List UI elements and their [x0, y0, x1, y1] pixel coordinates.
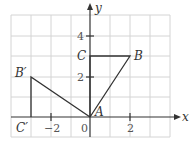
x-axis-arrow-icon [174, 114, 181, 120]
y-tick-label-4: 4 [77, 30, 84, 43]
y-tick-label-2: 2 [77, 71, 84, 84]
point-label-c-prime: C′ [16, 121, 28, 135]
x-tick-label-neg2: −2 [44, 122, 60, 135]
x-axis-label: x [182, 110, 189, 124]
point-label-b: B [133, 49, 143, 63]
coordinate-diagram: x y 4 2 −2 0 2 A B C B′ C′ [0, 0, 190, 143]
y-axis-label: y [94, 1, 102, 15]
x-tick-label-2: 2 [127, 122, 134, 135]
origin-label: 0 [81, 122, 88, 135]
point-label-b-prime: B′ [14, 66, 27, 80]
y-axis-arrow-icon [87, 3, 93, 10]
point-label-a: A [94, 105, 104, 119]
point-label-c: C [77, 49, 86, 63]
